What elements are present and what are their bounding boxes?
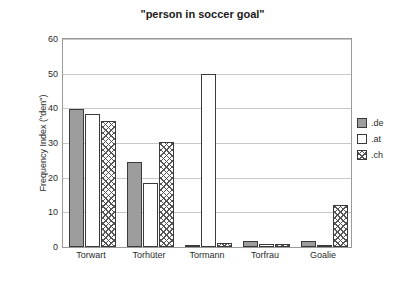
bar-chart: "person in soccer goal" Frequency Index … [0, 0, 405, 288]
bar [317, 245, 332, 247]
bar-group [295, 39, 353, 247]
y-axis-tick-label: 50 [32, 69, 58, 79]
bar-group [63, 39, 121, 247]
bar [259, 244, 274, 247]
bar [243, 241, 258, 247]
bar [301, 241, 316, 247]
bar [69, 109, 84, 247]
y-axis-tick-label: 40 [32, 103, 58, 113]
y-axis-tick-label: 0 [32, 242, 58, 252]
bar [143, 183, 158, 247]
y-axis-tick-label: 30 [32, 138, 58, 148]
x-axis-tick-labels: TorwartTorhüterTormannTorfrauGoalie [62, 250, 352, 268]
bar [159, 142, 174, 247]
legend-item-label: .de [371, 118, 384, 128]
x-axis-tick-label: Torwart [76, 250, 106, 260]
chart-title: "person in soccer goal" [0, 8, 405, 20]
bar [101, 121, 116, 247]
y-axis-tick-label: 10 [32, 207, 58, 217]
x-axis-tick-label: Torfrau [251, 250, 279, 260]
x-axis-tick-label: Tormann [189, 250, 224, 260]
legend-item-label: .ch [371, 150, 383, 160]
chart-legend: .de.at.ch [357, 118, 403, 166]
bar [127, 162, 142, 247]
bar-group [179, 39, 237, 247]
legend-item[interactable]: .de [357, 118, 403, 128]
legend-item[interactable]: .at [357, 134, 403, 144]
x-axis-tick-label: Torhüter [132, 250, 165, 260]
bar [85, 114, 100, 247]
legend-swatch-icon [357, 118, 367, 128]
bar [275, 244, 290, 247]
legend-swatch-icon [357, 134, 367, 144]
bar [185, 245, 200, 247]
plot-area [62, 38, 352, 248]
legend-item-label: .at [371, 134, 381, 144]
bar [201, 74, 216, 247]
y-axis-tick-label: 60 [32, 34, 58, 44]
bar-group [237, 39, 295, 247]
y-axis-tick-label: 20 [32, 173, 58, 183]
bar [217, 243, 232, 247]
x-axis-tick-label: Goalie [310, 250, 336, 260]
legend-swatch-icon [357, 150, 367, 160]
bars-layer [63, 39, 351, 247]
y-axis-tick-labels: 0102030405060 [30, 38, 58, 248]
bar [333, 205, 348, 247]
legend-item[interactable]: .ch [357, 150, 403, 160]
bar-group [121, 39, 179, 247]
